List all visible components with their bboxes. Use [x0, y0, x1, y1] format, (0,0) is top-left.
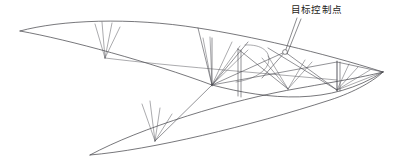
mid-junction-fan-ray-3: [212, 46, 240, 85]
brace-g: [212, 42, 248, 85]
brace-e: [155, 85, 212, 141]
brace-c: [238, 49, 288, 89]
mid-junction-fan-ray-2: [212, 42, 232, 85]
center-v-fan-ray-3: [288, 62, 312, 89]
lower-left-fan-ray-0: [142, 104, 155, 141]
target-control-point-label: 目标控制点: [291, 4, 342, 16]
brace-d: [285, 52, 337, 90]
brace-h: [268, 48, 337, 90]
lower-left-fan-ray-1: [150, 101, 155, 141]
vertical-post-group: [212, 38, 340, 97]
upper-surface-curve: [20, 21, 383, 72]
center-v-fan-ray-2: [288, 60, 305, 89]
mid-junction-fan-ray-0: [203, 38, 212, 85]
brace-i: [337, 62, 383, 72]
annotation-leader-group: [283, 18, 301, 54]
mid-junction-fan-ray-4: [212, 50, 248, 85]
wireframe-structure: [0, 0, 403, 164]
target-control-point-node: [283, 50, 288, 55]
lower-left-fan-ray-2: [155, 108, 160, 141]
brace-b: [212, 62, 337, 85]
lower-left-fan-ray-3: [155, 114, 172, 141]
brace-f: [198, 28, 212, 85]
center-v-fan-ray-1: [268, 56, 288, 89]
upper-lower-chord: [20, 31, 383, 97]
wireframe-diagram-canvas: 目标控制点: [0, 0, 403, 164]
diagonal-brace-group: [155, 28, 383, 141]
brace-a: [212, 52, 285, 85]
lower-outline-top: [90, 72, 383, 155]
lower-outline-bottom: [90, 72, 383, 155]
